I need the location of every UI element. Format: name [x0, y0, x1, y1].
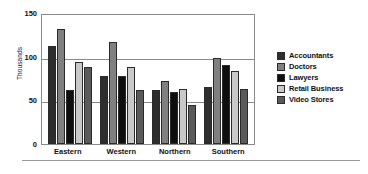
bar-chart: Thousands 150100500 EasternWesternNorthe… — [0, 0, 368, 174]
bar-northern-accountants — [152, 90, 160, 144]
bar-western-lawyers — [118, 76, 126, 144]
legend-swatch-icon — [277, 52, 285, 60]
y-tick-100: 100 — [13, 54, 37, 62]
legend-label: Video Stores — [289, 95, 334, 104]
bar-western-accountants — [100, 76, 108, 144]
legend-label: Retail Business — [289, 84, 343, 93]
bar-eastern-lawyers — [66, 90, 74, 144]
legend-item-doctors: Doctors — [277, 61, 365, 72]
bar-eastern-retail-business — [75, 62, 83, 144]
bar-northern-doctors — [161, 81, 169, 144]
bar-eastern-video-stores — [84, 67, 92, 144]
bar-southern-accountants — [204, 87, 212, 144]
legend: AccountantsDoctorsLawyersRetail Business… — [277, 50, 365, 105]
legend-item-lawyers: Lawyers — [277, 72, 365, 83]
legend-swatch-icon — [277, 85, 285, 93]
bar-southern-lawyers — [222, 65, 230, 144]
legend-swatch-icon — [277, 96, 285, 104]
legend-item-retail-business: Retail Business — [277, 83, 365, 94]
bar-group-southern — [204, 15, 248, 144]
bar-southern-retail-business — [231, 71, 239, 144]
bar-western-video-stores — [136, 90, 144, 144]
bar-western-retail-business — [127, 67, 135, 144]
x-tick-western: Western — [95, 147, 147, 156]
y-tick-150: 150 — [13, 10, 37, 18]
bar-group-western — [100, 15, 144, 144]
bar-western-doctors — [109, 42, 117, 144]
bar-southern-doctors — [213, 58, 221, 144]
bottom-divider — [22, 160, 360, 161]
bar-group-northern — [152, 15, 196, 144]
legend-label: Doctors — [289, 62, 317, 71]
bar-group-eastern — [48, 15, 92, 144]
bar-eastern-doctors — [57, 29, 65, 144]
legend-item-accountants: Accountants — [277, 50, 365, 61]
bar-northern-lawyers — [170, 92, 178, 144]
plot-area — [41, 14, 255, 145]
bar-southern-video-stores — [240, 89, 248, 144]
legend-swatch-icon — [277, 74, 285, 82]
y-tick-50: 50 — [13, 97, 37, 105]
legend-label: Accountants — [289, 51, 333, 60]
bar-eastern-accountants — [48, 46, 56, 144]
y-tick-0: 0 — [13, 141, 37, 149]
bar-northern-video-stores — [188, 105, 196, 144]
x-tick-eastern: Eastern — [42, 147, 94, 156]
x-axis-tick-labels: EasternWesternNorthernSouthern — [41, 147, 255, 161]
x-tick-northern: Northern — [149, 147, 201, 156]
x-tick-southern: Southern — [202, 147, 254, 156]
bar-groups — [42, 15, 254, 144]
legend-item-video-stores: Video Stores — [277, 94, 365, 105]
legend-label: Lawyers — [289, 73, 318, 82]
legend-swatch-icon — [277, 63, 285, 71]
bar-northern-retail-business — [179, 89, 187, 144]
y-axis-tick-labels: 150100500 — [12, 0, 37, 174]
